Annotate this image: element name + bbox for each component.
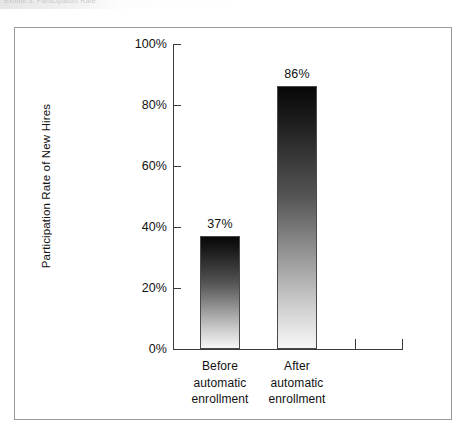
scan-artifact-strip: Exhibit 3: Participation Rate xyxy=(0,0,463,9)
y-axis-tick-60 xyxy=(174,166,181,167)
y-axis-label-0-wrap: 0% xyxy=(107,343,167,355)
category-label-after-line3: enrollment xyxy=(252,391,342,408)
y-axis-label-80: 80% xyxy=(113,99,167,111)
y-axis-label-40-wrap: 40% xyxy=(107,221,167,233)
y-axis-label-20: 20% xyxy=(113,282,167,294)
y-axis-label-60: 60% xyxy=(113,160,167,172)
bar-chart-plot: 100% 80% 60% 40% 20% 0% Participation Ra… xyxy=(15,28,453,421)
x-axis-category-label-after: After automatic enrollment xyxy=(252,358,342,408)
x-axis-tick-6 xyxy=(402,339,403,349)
category-label-after-line1: After xyxy=(252,358,342,375)
bar-after-automatic-enrollment[interactable] xyxy=(277,86,317,349)
y-axis-tick-20 xyxy=(174,288,181,289)
y-axis-label-80-wrap: 80% xyxy=(107,99,167,111)
y-axis-title: Participation Rate of New Hires xyxy=(40,86,52,286)
x-axis-line xyxy=(173,349,403,350)
y-axis-label-0: 0% xyxy=(113,343,167,355)
y-axis-label-40: 40% xyxy=(113,221,167,233)
y-axis-line xyxy=(173,44,174,350)
y-axis-tick-80 xyxy=(174,105,181,106)
y-axis-label-100: 100% xyxy=(113,38,167,50)
x-axis-tick-5 xyxy=(355,339,356,349)
y-axis-label-60-wrap: 60% xyxy=(107,160,167,172)
chart-frame: 100% 80% 60% 40% 20% 0% Participation Ra… xyxy=(14,27,452,420)
bar-before-automatic-enrollment[interactable] xyxy=(200,236,240,349)
y-axis-tick-100 xyxy=(174,44,181,45)
y-axis-label-20-wrap: 20% xyxy=(107,282,167,294)
bar-value-label-after: 86% xyxy=(268,68,326,81)
scan-artifact-text: Exhibit 3: Participation Rate xyxy=(4,0,96,4)
y-axis-tick-40 xyxy=(174,227,181,228)
y-axis-label-100-wrap: 100% xyxy=(107,38,167,50)
category-label-after-line2: automatic xyxy=(252,375,342,392)
bar-value-label-before: 37% xyxy=(191,218,249,231)
